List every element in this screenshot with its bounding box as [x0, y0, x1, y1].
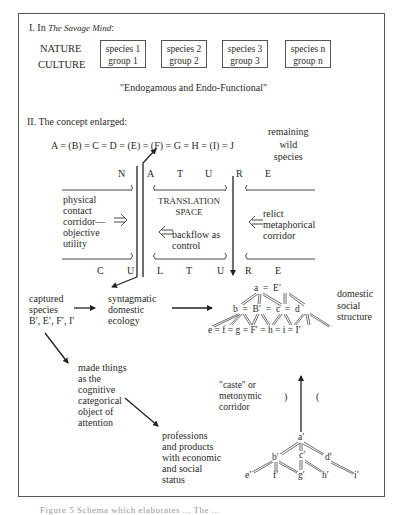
figure-caption: Figure 5 Schema which elaborates ... The… [40, 505, 220, 515]
